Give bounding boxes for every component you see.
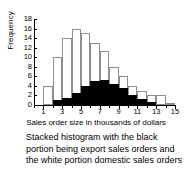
y-tick-label: 10 [8, 53, 32, 61]
bar-segment-export [53, 100, 62, 105]
bar-segment-domestic [43, 86, 52, 105]
bar-segment-export [147, 102, 156, 105]
bar-segment-export [62, 98, 71, 105]
y-tick-label: 6 [8, 72, 32, 80]
x-tick-label: 9 [112, 108, 126, 116]
x-tick-label: 15 [168, 108, 182, 116]
histogram-bar [90, 43, 99, 105]
histogram-bar [119, 76, 128, 105]
bar-segment-export [100, 80, 109, 105]
bar-group [34, 19, 175, 105]
bar-segment-export [72, 93, 81, 105]
bar-segment-domestic [156, 95, 165, 105]
y-tick-label: 8 [8, 63, 32, 71]
histogram-bar [62, 38, 71, 105]
plot-area [34, 19, 175, 105]
histogram-bar [137, 91, 146, 105]
bar-segment-export [137, 99, 146, 105]
x-tick-label: 3 [55, 108, 69, 116]
bar-segment-export [109, 84, 118, 105]
x-tick-label: 11 [130, 108, 144, 116]
bar-segment-export [119, 88, 128, 105]
histogram-bar [81, 33, 90, 105]
bar-segment-export [128, 95, 137, 106]
x-tick-label: 1 [36, 108, 50, 116]
y-tick-label: 12 [8, 44, 32, 52]
bar-segment-domestic [166, 103, 175, 105]
x-tick-label: 13 [149, 108, 163, 116]
histogram-bar [128, 86, 137, 105]
histogram-bar [156, 95, 165, 105]
chart-page: Frequency 024681012141618 13579111315 Sa… [0, 0, 192, 185]
x-axis-title: Sales order size in thousands of dollars [0, 118, 192, 127]
histogram-chart: Frequency 024681012141618 13579111315 Sa… [0, 0, 192, 118]
histogram-bar [109, 67, 118, 105]
x-axis-tick-labels: 13579111315 [34, 108, 176, 118]
bar-segment-export [90, 81, 99, 105]
y-tick-label: 16 [8, 25, 32, 33]
histogram-bar [43, 86, 52, 105]
y-tick-label: 0 [8, 101, 32, 109]
histogram-bar [147, 95, 156, 105]
bar-segment-domestic [62, 38, 71, 105]
histogram-bar [100, 51, 109, 105]
y-axis-tick-labels: 024681012141618 [8, 14, 32, 108]
bar-segment-export [81, 86, 90, 105]
x-tick-label: 5 [74, 108, 88, 116]
y-tick-label: 18 [8, 15, 32, 23]
x-tick-label: 7 [93, 108, 107, 116]
bar-segment-domestic [53, 57, 62, 105]
y-tick-label: 14 [8, 34, 32, 42]
figure-caption: Stacked histogram with the black portion… [26, 132, 186, 167]
y-tick-label: 4 [8, 82, 32, 90]
histogram-bar [72, 29, 81, 105]
histogram-bar [53, 57, 62, 105]
y-tick-label: 2 [8, 91, 32, 99]
